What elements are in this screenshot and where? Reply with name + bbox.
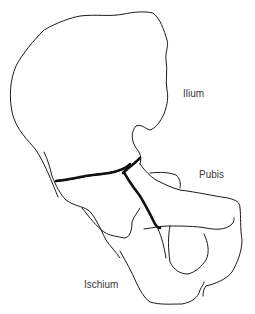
triradiate-cartilage-descending-core — [124, 172, 160, 228]
ischium-lower-outline — [120, 251, 204, 304]
hip-bone-diagram: Ilium Pubis Ischium — [0, 0, 255, 314]
label-pubis: Pubis — [199, 170, 224, 180]
triradiate-cartilage-horizontal — [56, 164, 130, 181]
label-ischium: Ischium — [84, 280, 118, 290]
pubis-upper-outline — [140, 164, 242, 296]
bone-outline-drawing — [0, 0, 255, 314]
ischium-left-outline — [44, 152, 120, 258]
pubic-crest-outline — [150, 172, 180, 188]
triradiate-cartilage-upper-core — [123, 158, 140, 173]
cropped-caption-remnant — [38, 307, 218, 314]
obturator-foramen-outline — [169, 226, 209, 274]
obturator-inner-line — [158, 229, 166, 258]
label-ilium: Ilium — [183, 89, 204, 99]
